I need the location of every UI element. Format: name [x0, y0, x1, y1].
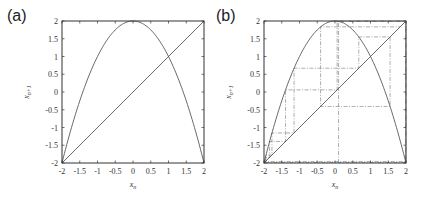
x-tick-label: -2	[59, 167, 66, 176]
x-tick-label: 0	[333, 167, 337, 176]
y-tick-label: 0.5	[48, 70, 58, 79]
x-tick-label: -0.5	[311, 167, 324, 176]
x-tick-label: 0	[131, 167, 135, 176]
x-axis-label: xn	[129, 180, 137, 190]
y-tick-label: 0	[256, 88, 260, 97]
x-tick-label: 0.5	[348, 167, 358, 176]
y-tick-label: 0	[54, 88, 58, 97]
y-tick-label: -0.5	[247, 106, 260, 115]
y-tick-label: -2	[51, 159, 58, 168]
x-tick-label: -0.5	[109, 167, 122, 176]
x-tick-label: -2	[261, 167, 268, 176]
y-tick-label: -1	[51, 124, 58, 133]
x-tick-label: 1.5	[383, 167, 393, 176]
y-tick-label: -1.5	[45, 141, 58, 150]
plot-b: -2-1.5-1-0.500.511.52-2-1.5-1-0.500.511.…	[224, 17, 408, 190]
x-tick-label: -1.5	[275, 167, 288, 176]
identity-line	[62, 21, 204, 163]
x-tick-label: 1.5	[181, 167, 191, 176]
y-tick-label: 1	[54, 53, 58, 62]
y-tick-label: -1.5	[247, 141, 260, 150]
y-axis-label: xn+1	[22, 85, 32, 100]
y-axis-label: xn+1	[224, 85, 234, 100]
plot-a: -2-1.5-1-0.500.511.52-2-1.5-1-0.500.511.…	[22, 17, 206, 190]
x-tick-label: -1.5	[73, 167, 86, 176]
y-tick-label: -2	[253, 159, 260, 168]
y-tick-label: -1	[253, 124, 260, 133]
chart-canvas: -2-1.5-1-0.500.511.52-2-1.5-1-0.500.511.…	[0, 0, 424, 200]
x-tick-label: 2	[202, 167, 206, 176]
y-tick-label: 2	[54, 17, 58, 26]
y-tick-label: 1.5	[250, 35, 260, 44]
x-tick-label: 2	[404, 167, 408, 176]
x-tick-label: 0.5	[146, 167, 156, 176]
y-tick-label: 0.5	[250, 70, 260, 79]
y-tick-label: 1	[256, 53, 260, 62]
x-tick-label: 1	[369, 167, 373, 176]
x-tick-label: -1	[296, 167, 303, 176]
x-tick-label: 1	[167, 167, 171, 176]
x-tick-label: -1	[94, 167, 101, 176]
y-tick-label: -0.5	[45, 106, 58, 115]
y-tick-label: 2	[256, 17, 260, 26]
y-tick-label: 1.5	[48, 35, 58, 44]
x-axis-label: xn	[331, 180, 339, 190]
